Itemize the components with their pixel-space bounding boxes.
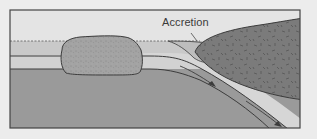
subduction-accretion-diagram [0,0,317,139]
microcontinent [61,36,142,75]
accretion-label: Accretion [162,16,209,28]
